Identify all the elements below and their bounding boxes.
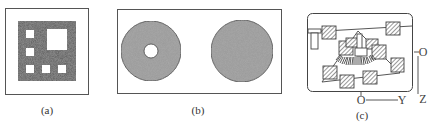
- small-hole: [26, 30, 34, 38]
- caption-c: (c): [356, 109, 369, 122]
- solid-disk: [211, 20, 273, 82]
- caption-b: (b): [192, 104, 205, 117]
- hatched-block: [372, 45, 386, 59]
- y-origin-label: O: [357, 93, 366, 107]
- small-hole: [42, 65, 50, 73]
- large-hole: [47, 29, 67, 50]
- y-axis-label: Y: [398, 93, 407, 107]
- small-hole: [58, 65, 66, 73]
- panel-a: (a): [6, 9, 89, 118]
- bracket-top: [308, 29, 321, 33]
- z-axis-label: Z: [419, 92, 426, 106]
- figure-canvas: (a) (b): [0, 0, 432, 127]
- hatched-block: [322, 26, 336, 39]
- hatched-block: [323, 66, 337, 79]
- hatched-block: [340, 75, 354, 88]
- small-hole: [26, 48, 34, 56]
- hatched-block: [346, 38, 358, 47]
- caption-a: (a): [41, 104, 54, 117]
- central-base: [355, 48, 367, 56]
- panel-c: [308, 14, 420, 101]
- small-hole: [26, 65, 34, 73]
- hatched-block: [386, 22, 400, 35]
- disk-hole: [144, 44, 158, 58]
- panel-b: (b): [118, 10, 282, 118]
- hatched-block: [391, 58, 404, 72]
- bracket-leg: [311, 33, 318, 49]
- z-origin-label: O: [419, 45, 428, 59]
- hatched-block: [363, 71, 377, 84]
